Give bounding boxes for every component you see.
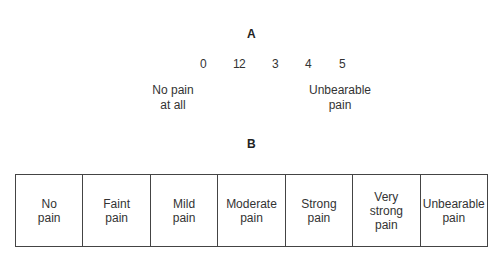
category-text: No: [18, 197, 80, 211]
category-very-strong-pain: Very strong pain: [353, 175, 420, 247]
category-text: pain: [153, 211, 215, 225]
scale-number: 5: [339, 57, 346, 71]
section-b-label: B: [247, 137, 256, 151]
category-no-pain: No pain: [16, 175, 83, 247]
scale-number: 0: [200, 57, 207, 71]
category-text: Faint: [85, 197, 147, 211]
anchor-unbearable-pain: Unbearable pain: [300, 83, 380, 113]
verbal-rating-scale: No pain Faint pain Mild pain Moderate pa…: [15, 174, 488, 247]
category-text: Moderate: [220, 197, 282, 211]
category-unbearable-pain: Unbearable pain: [420, 175, 487, 247]
category-text: strong: [355, 204, 417, 218]
category-text: pain: [288, 211, 350, 225]
category-text: Strong: [288, 197, 350, 211]
category-text: pain: [85, 211, 147, 225]
section-a-label: A: [247, 27, 256, 41]
anchor-line: Unbearable: [300, 83, 380, 98]
anchor-line: at all: [143, 98, 203, 113]
category-text: pain: [18, 211, 80, 225]
scale-number: 3: [272, 57, 279, 71]
category-text: Mild: [153, 197, 215, 211]
anchor-line: pain: [300, 98, 380, 113]
category-faint-pain: Faint pain: [83, 175, 150, 247]
category-moderate-pain: Moderate pain: [218, 175, 285, 247]
category-text: pain: [355, 218, 417, 232]
category-mild-pain: Mild pain: [150, 175, 217, 247]
scale-number: 4: [305, 57, 312, 71]
category-text: pain: [423, 211, 485, 225]
anchor-line: No pain: [143, 83, 203, 98]
scale-number: 2: [239, 57, 246, 71]
category-text: pain: [220, 211, 282, 225]
category-strong-pain: Strong pain: [285, 175, 352, 247]
category-text: Unbearable: [423, 197, 485, 211]
anchor-no-pain: No pain at all: [143, 83, 203, 113]
category-text: Very: [355, 190, 417, 204]
